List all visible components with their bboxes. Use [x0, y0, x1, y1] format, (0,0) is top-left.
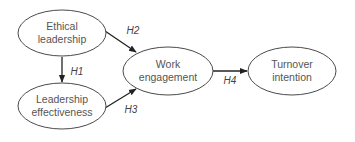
path-diagram: H1 H2 H3 H4 Ethical leadership Leadershi… — [0, 0, 355, 142]
node-leadership-effectiveness: Leadership effectiveness — [18, 83, 106, 129]
edge-label-h4: H4 — [224, 75, 237, 86]
node-label: Turnover — [271, 58, 313, 70]
node-turnover-intention: Turnover intention — [248, 47, 336, 95]
edge-label-h3: H3 — [125, 104, 138, 115]
node-label: Leadership — [36, 93, 88, 105]
edge-label-h2: H2 — [127, 25, 140, 36]
node-label: Ethical — [46, 20, 78, 32]
node-label: leadership — [38, 33, 87, 45]
node-label: Work — [156, 58, 181, 70]
node-label: engagement — [139, 71, 197, 83]
node-label: effectiveness — [31, 106, 92, 118]
node-work-engagement: Work engagement — [123, 47, 213, 95]
node-ethical-leadership: Ethical leadership — [18, 10, 106, 56]
edge-label-h1: H1 — [71, 66, 84, 77]
node-label: intention — [272, 71, 312, 83]
